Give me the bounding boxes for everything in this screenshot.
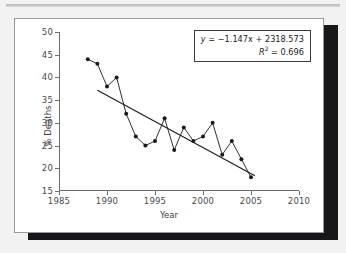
plot-area: 1520253035404550 19851990199520002005201… bbox=[59, 32, 299, 191]
x-tick-mark bbox=[251, 191, 252, 195]
chart-panel: % Deaths Year y = −1.147x + 2318.573 R2 … bbox=[14, 18, 324, 233]
figure-background: % Deaths Year y = −1.147x + 2318.573 R2 … bbox=[0, 0, 346, 253]
data-point-marker bbox=[163, 116, 167, 120]
trend-line bbox=[97, 90, 254, 175]
data-point-marker bbox=[220, 153, 224, 157]
x-tick-mark bbox=[299, 191, 300, 195]
data-point-marker bbox=[86, 57, 90, 61]
y-tick-label: 20 bbox=[42, 163, 53, 173]
x-tick-label: 1985 bbox=[48, 196, 70, 206]
x-tick-mark bbox=[203, 191, 204, 195]
x-tick-mark bbox=[155, 191, 156, 195]
top-divider-rule bbox=[6, 4, 340, 7]
x-tick-mark bbox=[59, 191, 60, 195]
data-point-marker bbox=[191, 139, 195, 143]
data-point-marker bbox=[124, 112, 128, 116]
y-tick-label: 35 bbox=[42, 95, 53, 105]
data-point-marker bbox=[201, 134, 205, 138]
data-point-marker bbox=[249, 175, 253, 179]
x-tick-label: 2010 bbox=[288, 196, 310, 206]
data-point-marker bbox=[95, 62, 99, 66]
y-tick-label: 15 bbox=[42, 186, 53, 196]
y-tick-label: 50 bbox=[42, 27, 53, 37]
y-tick-label: 25 bbox=[42, 141, 53, 151]
data-point-marker bbox=[115, 75, 119, 79]
y-tick-label: 40 bbox=[42, 72, 53, 82]
data-point-marker bbox=[172, 148, 176, 152]
data-point-marker bbox=[211, 121, 215, 125]
x-axis-title: Year bbox=[15, 210, 323, 220]
series-graphic bbox=[59, 32, 299, 191]
y-tick-label: 45 bbox=[42, 50, 53, 60]
data-point-marker bbox=[105, 85, 109, 89]
data-point-marker bbox=[182, 125, 186, 129]
x-tick-mark bbox=[107, 191, 108, 195]
y-tick-label: 30 bbox=[42, 118, 53, 128]
data-point-marker bbox=[143, 144, 147, 148]
data-point-marker bbox=[230, 139, 234, 143]
data-point-marker bbox=[134, 134, 138, 138]
data-point-marker bbox=[239, 157, 243, 161]
x-tick-label: 2005 bbox=[240, 196, 262, 206]
x-tick-label: 1995 bbox=[144, 196, 166, 206]
data-point-marker bbox=[153, 139, 157, 143]
x-tick-label: 1990 bbox=[96, 196, 118, 206]
x-tick-label: 2000 bbox=[192, 196, 214, 206]
